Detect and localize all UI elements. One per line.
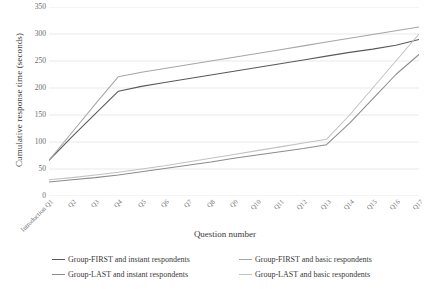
legend-line-icon [52, 259, 65, 260]
y-tick-label: 0 [16, 192, 46, 200]
legend-item-label: Group-FIRST and instant respondents [68, 255, 190, 264]
y-axis-tick-labels: 050100150200250300350 [14, 0, 46, 200]
legend-item[interactable]: Group-LAST and basic respondents [239, 267, 420, 282]
y-tick-label: 250 [16, 57, 46, 65]
legend-item-label: Group-FIRST and basic respondents [255, 255, 372, 264]
y-tick-label: 200 [16, 84, 46, 92]
legend-item[interactable]: Group-LAST and instant respondents [52, 267, 233, 282]
legend-item-label: Group-LAST and basic respondents [255, 270, 370, 279]
x-axis-title: Question number [120, 229, 330, 239]
y-tick-label: 300 [16, 30, 46, 38]
y-tick-label: 350 [16, 3, 46, 11]
legend-item[interactable]: Group-FIRST and instant respondents [52, 252, 233, 267]
x-axis-tick-labels: Introduction Q1Q2Q3Q4Q5Q6Q7Q8Q9Q10Q11Q12… [49, 196, 419, 230]
cumulative-response-time-chart: Cumulative response time (seconds) 05010… [0, 0, 424, 289]
y-tick-label: 100 [16, 138, 46, 146]
y-tick-label: 50 [16, 165, 46, 173]
legend-line-icon [52, 274, 65, 275]
plot-area [49, 7, 419, 196]
legend-item-label: Group-LAST and instant respondents [68, 270, 188, 279]
series-lines [49, 7, 419, 196]
chart-legend: Group-FIRST and instant respondentsGroup… [52, 252, 420, 282]
legend-line-icon [239, 274, 252, 275]
legend-item[interactable]: Group-FIRST and basic respondents [239, 252, 420, 267]
legend-line-icon [239, 259, 252, 260]
y-tick-label: 150 [16, 111, 46, 119]
